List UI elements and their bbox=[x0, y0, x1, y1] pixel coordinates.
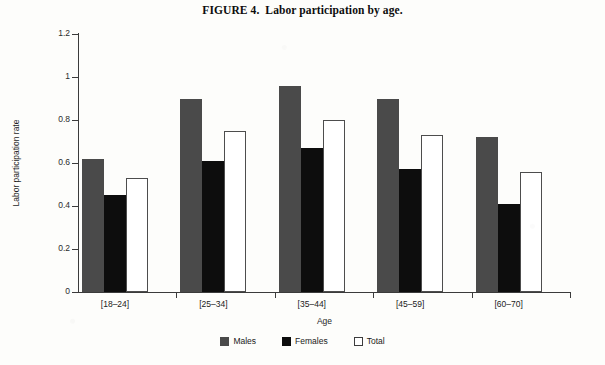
legend-label: Females bbox=[295, 336, 328, 346]
bar-males[interactable] bbox=[377, 99, 399, 293]
x-category-label: [35–44] bbox=[267, 299, 357, 309]
plot-area: 00.20.40.60.811.2 Labor participation ra… bbox=[78, 34, 570, 292]
y-axis-title: Labor participation rate bbox=[11, 68, 21, 258]
legend-label: Males bbox=[233, 336, 256, 346]
x-tick-mark bbox=[373, 292, 374, 298]
y-tick-label: 0 bbox=[34, 286, 70, 296]
y-tick-label: 0.2 bbox=[34, 243, 70, 253]
x-category-label: [18–24] bbox=[70, 299, 160, 309]
figure-title: FIGURE 4. Labor participation by age. bbox=[0, 4, 605, 16]
x-tick-mark bbox=[570, 292, 571, 298]
y-tick-label: 1.2 bbox=[34, 28, 70, 38]
chart-legend: MalesFemalesTotal bbox=[0, 336, 605, 346]
bar-males[interactable] bbox=[180, 99, 202, 293]
bar-females[interactable] bbox=[399, 169, 421, 292]
x-tick-mark bbox=[472, 292, 473, 298]
bar-total[interactable] bbox=[323, 120, 345, 292]
x-tick-mark bbox=[275, 292, 276, 298]
x-category-label: [25–34] bbox=[168, 299, 258, 309]
bar-females[interactable] bbox=[498, 204, 520, 292]
bar-group bbox=[472, 34, 570, 292]
bar-total[interactable] bbox=[126, 178, 148, 292]
legend-item-females[interactable]: Females bbox=[282, 336, 328, 346]
y-tick-label: 0.8 bbox=[34, 114, 70, 124]
total-swatch bbox=[354, 337, 363, 346]
y-tick-label: 1 bbox=[34, 71, 70, 81]
bar-total[interactable] bbox=[520, 172, 542, 292]
x-tick-mark bbox=[176, 292, 177, 298]
bar-males[interactable] bbox=[279, 86, 301, 292]
bar-females[interactable] bbox=[202, 161, 224, 292]
x-axis-line bbox=[78, 292, 571, 293]
x-category-label: [45–59] bbox=[365, 299, 455, 309]
legend-item-males[interactable]: Males bbox=[220, 336, 256, 346]
legend-label: Total bbox=[367, 336, 385, 346]
bar-total[interactable] bbox=[224, 131, 246, 292]
bar-males[interactable] bbox=[82, 159, 104, 292]
bar-group bbox=[275, 34, 373, 292]
bar-males[interactable] bbox=[476, 137, 498, 292]
females-swatch bbox=[282, 337, 291, 346]
bar-group bbox=[176, 34, 274, 292]
y-tick-label: 0.6 bbox=[34, 157, 70, 167]
x-axis-title: Age bbox=[78, 316, 571, 326]
figure-container: FIGURE 4. Labor participation by age. 00… bbox=[0, 0, 605, 365]
y-tick-mark bbox=[72, 292, 78, 293]
bar-total[interactable] bbox=[421, 135, 443, 292]
legend-item-total[interactable]: Total bbox=[354, 336, 385, 346]
y-tick-label: 0.4 bbox=[34, 200, 70, 210]
bar-group bbox=[373, 34, 471, 292]
bar-females[interactable] bbox=[104, 195, 126, 292]
x-category-label: [60–70] bbox=[464, 299, 554, 309]
bar-females[interactable] bbox=[301, 148, 323, 292]
males-swatch bbox=[220, 337, 229, 346]
bar-group bbox=[78, 34, 176, 292]
